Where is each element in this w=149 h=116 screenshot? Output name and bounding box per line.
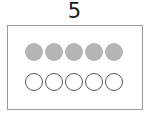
empty-dots-row (25, 73, 123, 91)
filled-dot-icon (25, 43, 43, 61)
filled-dots-row (25, 43, 123, 61)
filled-dot-icon (45, 43, 63, 61)
filled-dot-icon (105, 43, 123, 61)
number-label: 5 (0, 0, 149, 22)
filled-dot-icon (85, 43, 103, 61)
empty-dot-icon (65, 73, 83, 91)
empty-dot-icon (25, 73, 43, 91)
empty-dot-icon (45, 73, 63, 91)
empty-dot-icon (105, 73, 123, 91)
ten-frame (7, 25, 143, 110)
filled-dot-icon (65, 43, 83, 61)
empty-dot-icon (85, 73, 103, 91)
